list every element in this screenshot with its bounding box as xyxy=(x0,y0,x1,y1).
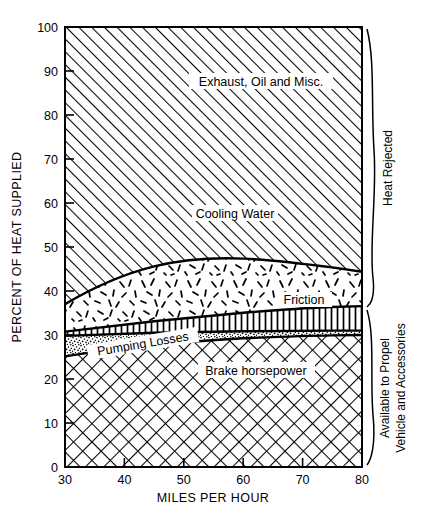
y-tick-100: 100 xyxy=(37,21,58,35)
bracket-label-available-line1: Available to Propel xyxy=(378,338,392,438)
band-label-exhaust-group: Exhaust, Oil and Misc. xyxy=(189,73,333,89)
y-tick-70: 70 xyxy=(44,153,58,167)
x-tick-30: 30 xyxy=(58,473,72,487)
band-label-brake-horsepower: Brake horsepower xyxy=(205,364,306,378)
x-tick-80: 80 xyxy=(355,473,369,487)
x-tick-labels: 30 40 50 60 70 80 xyxy=(58,473,369,487)
y-tick-30: 30 xyxy=(44,329,58,343)
y-tick-90: 90 xyxy=(44,65,58,79)
stacked-bands xyxy=(65,27,362,467)
heat-distribution-area-chart: 100 90 80 70 60 50 40 30 20 10 0 30 40 5… xyxy=(0,0,432,520)
x-axis-title: MILES PER HOUR xyxy=(157,491,270,505)
y-tick-0: 0 xyxy=(51,461,58,475)
x-tick-70: 70 xyxy=(296,473,310,487)
chart-figure: 100 90 80 70 60 50 40 30 20 10 0 30 40 5… xyxy=(0,0,432,520)
y-tick-80: 80 xyxy=(44,109,58,123)
band-label-cooling-water: Cooling Water xyxy=(196,207,275,221)
y-tick-20: 20 xyxy=(44,373,58,387)
y-tick-50: 50 xyxy=(44,241,58,255)
bracket-label-available-line2: Vehicle and Accessories xyxy=(394,323,408,452)
y-tick-40: 40 xyxy=(44,285,58,299)
band-label-friction: Friction xyxy=(284,293,325,307)
y-tick-labels: 100 90 80 70 60 50 40 30 20 10 0 xyxy=(37,21,58,475)
band-label-brake-group: Brake horsepower xyxy=(198,362,315,378)
band-label-cooling-group: Cooling Water xyxy=(192,205,278,221)
brace-available-to-propel xyxy=(367,310,374,465)
x-tick-60: 60 xyxy=(236,473,250,487)
x-tick-50: 50 xyxy=(177,473,191,487)
band-label-friction-group: Friction xyxy=(277,292,332,307)
y-axis-title: PERCENT OF HEAT SUPPLIED xyxy=(10,152,24,343)
y-tick-10: 10 xyxy=(44,417,58,431)
y-tick-60: 60 xyxy=(44,197,58,211)
x-tick-40: 40 xyxy=(117,473,131,487)
band-label-exhaust: Exhaust, Oil and Misc. xyxy=(199,75,323,89)
bracket-label-heat-rejected: Heat Rejected xyxy=(381,130,395,206)
brace-heat-rejected xyxy=(367,29,375,307)
